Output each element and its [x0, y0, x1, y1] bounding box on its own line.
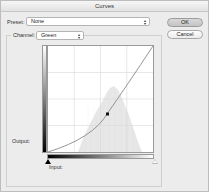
- white-triangle-icon[interactable]: [152, 159, 158, 164]
- output-label: Output:: [12, 138, 30, 144]
- cancel-button-label: Cancel: [176, 31, 193, 37]
- title-bar: Curves: [1, 1, 208, 12]
- preset-dropdown[interactable]: None ▴▾: [26, 17, 150, 26]
- curves-dialog: Curves Preset: None ▴▾ OK Cancel Channel…: [0, 0, 209, 192]
- curve-canvas: [48, 46, 153, 152]
- cancel-button[interactable]: Cancel: [167, 30, 203, 39]
- control-point: [106, 113, 109, 116]
- curve-graph[interactable]: [47, 45, 154, 153]
- channel-label: Channel:: [11, 32, 37, 38]
- grid: [48, 46, 153, 152]
- preset-label: Preset:: [7, 19, 24, 25]
- input-label: Input:: [49, 164, 63, 170]
- ok-button-label: OK: [181, 19, 189, 25]
- preset-value: None: [31, 18, 44, 24]
- ok-button[interactable]: OK: [167, 18, 203, 27]
- channel-dropdown[interactable]: Green ▴▾: [36, 31, 84, 40]
- up-down-arrows-icon: ▴▾: [76, 33, 82, 38]
- window-title: Curves: [95, 3, 114, 9]
- histogram: [78, 86, 142, 152]
- up-down-arrows-icon: ▴▾: [142, 19, 148, 24]
- input-gradient-bar: [47, 154, 154, 159]
- channel-value: Green: [41, 32, 56, 38]
